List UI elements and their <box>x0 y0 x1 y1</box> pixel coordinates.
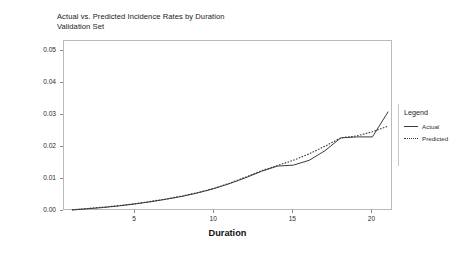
legend-entries: ActualPredicted <box>404 121 464 143</box>
y-tick-mark <box>60 82 63 83</box>
x-tick-label: 20 <box>356 215 386 222</box>
y-tick-label: 0.01 <box>18 174 56 181</box>
chart-title-block: Actual vs. Predicted Incidence Rates by … <box>57 12 357 32</box>
y-tick-label: 0.05 <box>18 46 56 53</box>
legend: Legend ActualPredicted <box>404 108 464 145</box>
x-tick-mark <box>371 210 372 213</box>
legend-entry-label: Actual <box>422 123 439 130</box>
y-tick-mark <box>60 114 63 115</box>
page-title: Actual vs. Predicted Incidence Rates by … <box>57 12 357 22</box>
x-tick-label: 15 <box>277 215 307 222</box>
y-tick-mark <box>60 210 63 211</box>
chart-lines <box>64 41 393 211</box>
legend-line-dotted-icon <box>404 134 418 142</box>
y-tick-label: 0.02 <box>18 142 56 149</box>
y-tick-label: 0.00 <box>18 206 56 213</box>
x-tick-mark <box>213 210 214 213</box>
x-tick-label: 5 <box>119 215 149 222</box>
chart-screenshot: Actual vs. Predicted Incidence Rates by … <box>0 0 467 255</box>
legend-entry-actual[interactable]: Actual <box>404 121 464 131</box>
x-axis-label: Duration <box>63 228 392 238</box>
legend-title: Legend <box>404 108 464 117</box>
y-tick-label: 0.03 <box>18 110 56 117</box>
legend-line-solid-icon <box>404 122 418 130</box>
x-tick-mark <box>292 210 293 213</box>
plot-area <box>63 40 392 210</box>
series-line-actual <box>72 112 388 210</box>
legend-entry-predicted[interactable]: Predicted <box>404 133 464 143</box>
y-tick-mark <box>60 146 63 147</box>
chart-subtitle: Validation Set <box>57 22 357 32</box>
series-line-predicted <box>72 126 388 210</box>
x-tick-label: 10 <box>198 215 228 222</box>
legend-entry-label: Predicted <box>422 135 448 142</box>
y-tick-label: 0.04 <box>18 78 56 85</box>
y-tick-mark <box>60 50 63 51</box>
legend-divider <box>398 104 399 166</box>
x-tick-mark <box>134 210 135 213</box>
y-tick-mark <box>60 178 63 179</box>
